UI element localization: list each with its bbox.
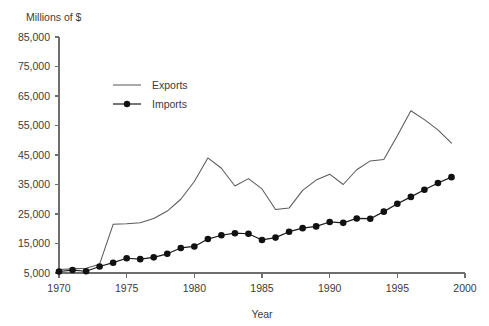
- imports-data-point: [272, 234, 279, 241]
- imports-data-point: [205, 236, 212, 243]
- imports-data-point: [340, 220, 347, 227]
- imports-data-point: [96, 263, 103, 270]
- y-tick-label: 55,000: [18, 119, 50, 131]
- imports-data-point: [448, 174, 455, 181]
- legend: Exports Imports: [113, 79, 188, 110]
- imports-data-point: [83, 268, 90, 275]
- chart-container: Millions of $ 5,00015,00025,00035,00045,…: [0, 0, 489, 326]
- imports-data-point: [326, 219, 333, 226]
- imports-data-point: [353, 215, 360, 222]
- imports-data-point: [408, 194, 415, 201]
- imports-data-point: [435, 180, 442, 187]
- imports-data-point: [123, 255, 130, 262]
- y-tick-label: 85,000: [18, 31, 50, 43]
- series-layer: [56, 111, 455, 275]
- imports-data-point: [381, 208, 388, 215]
- imports-data-point: [259, 237, 266, 244]
- imports-data-point: [218, 232, 225, 239]
- legend-label-imports: Imports: [152, 98, 187, 110]
- y-tick-label: 25,000: [18, 208, 50, 220]
- imports-data-point: [164, 251, 171, 258]
- y-tick-group: 5,00015,00025,00035,00045,00055,00065,00…: [18, 31, 59, 279]
- y-axis-title-group: Millions of $: [26, 11, 82, 23]
- imports-data-point: [191, 243, 198, 250]
- legend-swatch-imports-marker: [124, 101, 130, 107]
- imports-data-point: [245, 230, 252, 237]
- imports-data-point: [232, 230, 239, 237]
- x-tick-label: 1970: [47, 282, 71, 294]
- x-axis: 1970197519801985199019952000 Year: [47, 273, 477, 320]
- x-tick-label: 1980: [183, 282, 207, 294]
- imports-data-point: [178, 245, 185, 252]
- imports-data-point: [394, 200, 401, 207]
- y-axis-title: Millions of $: [26, 11, 82, 23]
- imports-data-point: [367, 215, 374, 222]
- imports-data-point: [69, 267, 76, 274]
- x-tick-group: 1970197519801985199019952000: [47, 273, 477, 294]
- x-tick-label: 1985: [250, 282, 274, 294]
- imports-data-point: [110, 259, 117, 266]
- exports-line: [59, 111, 451, 270]
- y-axis: 5,00015,00025,00035,00045,00055,00065,00…: [18, 31, 59, 279]
- imports-data-point: [313, 223, 320, 230]
- imports-data-point: [286, 228, 293, 235]
- x-tick-label: 1995: [386, 282, 410, 294]
- imports-data-point: [137, 256, 144, 263]
- x-tick-label: 2000: [453, 282, 477, 294]
- line-chart: Millions of $ 5,00015,00025,00035,00045,…: [0, 0, 489, 326]
- x-axis-title: Year: [251, 308, 273, 320]
- x-tick-label: 1975: [115, 282, 139, 294]
- y-tick-label: 15,000: [18, 237, 50, 249]
- y-tick-label: 65,000: [18, 90, 50, 102]
- x-tick-label: 1990: [318, 282, 342, 294]
- imports-data-point: [56, 268, 63, 275]
- imports-data-point: [150, 254, 157, 261]
- y-tick-label: 35,000: [18, 178, 50, 190]
- y-tick-label: 75,000: [18, 60, 50, 72]
- legend-label-exports: Exports: [152, 79, 188, 91]
- y-tick-label: 5,000: [24, 267, 50, 279]
- y-tick-label: 45,000: [18, 149, 50, 161]
- imports-data-point: [299, 225, 306, 232]
- imports-data-point: [421, 187, 428, 194]
